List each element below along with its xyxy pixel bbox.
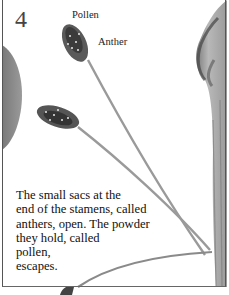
- caption-line: end of the stamens, called: [16, 202, 176, 216]
- caption-text: The small sacs at the end of the stamens…: [16, 188, 176, 274]
- label-anther: Anther: [98, 36, 127, 47]
- step-number: 4: [15, 6, 27, 33]
- caption-line: The small sacs at the: [16, 188, 176, 202]
- caption-line: escapes.: [16, 259, 176, 273]
- caption-line: anthers, open. The powder: [16, 217, 176, 231]
- caption-line: they hold, called: [16, 231, 176, 245]
- label-pollen: Pollen: [72, 9, 99, 20]
- caption-line: pollen,: [16, 245, 176, 259]
- illustration-page: 4 Pollen Anther The small sacs at the en…: [0, 0, 229, 295]
